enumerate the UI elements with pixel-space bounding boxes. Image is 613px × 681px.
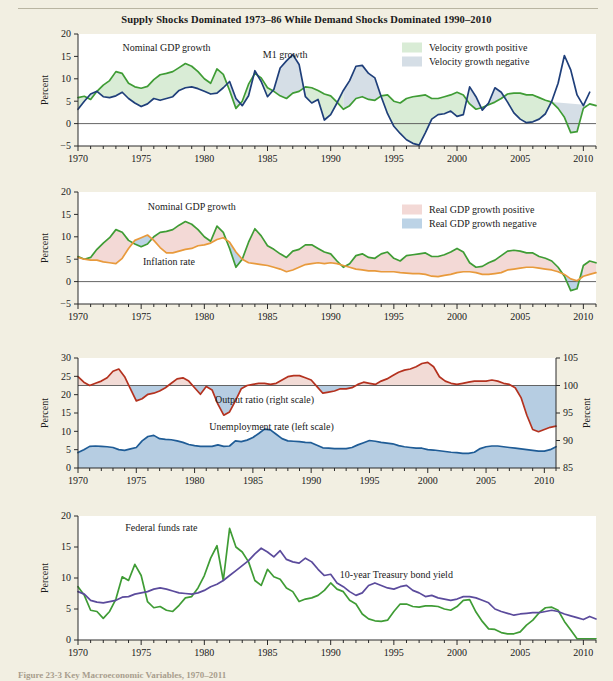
y-axis-tick-label: 5 — [66, 603, 71, 614]
series-annotation-1: Nominal GDP growth — [122, 42, 210, 53]
y-axis-right-tick-label: 100 — [563, 380, 578, 391]
legend-label-1: Real GDP growth positive — [429, 204, 535, 215]
x-axis-tick-label: 1985 — [258, 153, 278, 164]
y-axis-title: Percent — [39, 398, 50, 428]
panel3-svg: 051015202530Percent859095100105Percent19… — [0, 348, 613, 506]
figure-title: Supply Shocks Dominated 1973–86 While De… — [0, 14, 613, 25]
x-axis-tick-label: 2005 — [476, 475, 496, 486]
x-axis-tick-label: 1980 — [185, 475, 205, 486]
y-axis-tick-label: 20 — [61, 28, 71, 39]
y-axis-tick-label: −5 — [60, 298, 71, 309]
x-axis-tick-label: 2010 — [573, 153, 593, 164]
y-axis-tick-label: 10 — [61, 231, 71, 242]
x-axis-tick-label: 1985 — [258, 647, 278, 658]
y-axis-tick-label: 10 — [61, 426, 71, 437]
series-annotation-2: 10-year Treasury bond yield — [340, 569, 453, 580]
x-axis-tick-label: 2000 — [447, 153, 467, 164]
legend-label-2: Velocity growth negative — [429, 56, 530, 67]
y-axis-tick-label: 0 — [66, 276, 71, 287]
y-axis-tick-label: 5 — [66, 444, 71, 455]
x-axis-tick-label: 1970 — [68, 475, 88, 486]
plot-background — [78, 516, 596, 640]
x-axis-tick-label: 1995 — [359, 475, 379, 486]
x-axis-tick-label: 1990 — [321, 311, 341, 322]
chart-panel-2: −505101520Percent19701975198019851990199… — [0, 186, 613, 348]
x-axis-tick-label: 2005 — [510, 647, 530, 658]
series-annotation-2: Inflation rate — [143, 256, 195, 267]
legend-swatch-2 — [402, 219, 422, 229]
figure-caption: Figure 23-3 Key Macroeconomic Variables,… — [18, 670, 598, 681]
y-axis-tick-label: −5 — [60, 140, 71, 151]
y-axis-tick-label: 0 — [66, 118, 71, 129]
x-axis-tick-label: 2000 — [447, 647, 467, 658]
chart-panel-3: 051015202530Percent859095100105Percent19… — [0, 348, 613, 506]
x-axis-tick-label: 2010 — [573, 311, 593, 322]
legend-label-1: Velocity growth positive — [429, 42, 528, 53]
y-axis-tick-label: 20 — [61, 389, 71, 400]
x-axis-tick-label: 2010 — [534, 475, 554, 486]
x-axis-tick-label: 1975 — [131, 311, 151, 322]
x-axis-tick-label: 2005 — [510, 153, 530, 164]
x-axis-tick-label: 1990 — [301, 475, 321, 486]
y-axis-tick-label: 5 — [66, 96, 71, 107]
figure-container: Supply Shocks Dominated 1973–86 While De… — [0, 0, 613, 681]
y-axis-tick-label: 20 — [61, 186, 71, 197]
series-annotation-1: Federal funds rate — [125, 522, 198, 533]
x-axis-tick-label: 1995 — [384, 647, 404, 658]
legend-swatch-1 — [402, 205, 422, 215]
y-axis-tick-label: 5 — [66, 254, 71, 265]
panel1-svg: −505101520Percent19701975198019851990199… — [0, 28, 613, 186]
panel2-svg: −505101520Percent19701975198019851990199… — [0, 186, 613, 348]
legend-label-2: Real GDP growth negative — [429, 218, 537, 229]
x-axis-tick-label: 1975 — [131, 647, 151, 658]
y-axis-tick-label: 15 — [61, 541, 71, 552]
legend-swatch-2 — [402, 57, 422, 67]
y-axis-tick-label: 15 — [61, 51, 71, 62]
y-axis-right-tick-label: 90 — [563, 435, 573, 446]
legend-swatch-1 — [402, 43, 422, 53]
y-axis-right-title: Percent — [581, 398, 592, 428]
x-axis-tick-label: 1975 — [131, 153, 151, 164]
y-axis-title: Percent — [39, 563, 50, 593]
x-axis-tick-label: 1975 — [126, 475, 146, 486]
chart-panel-1: −505101520Percent19701975198019851990199… — [0, 28, 613, 186]
x-axis-tick-label: 1985 — [243, 475, 263, 486]
x-axis-tick-label: 2000 — [418, 475, 438, 486]
x-axis-tick-label: 1995 — [384, 311, 404, 322]
x-axis-tick-label: 1995 — [384, 153, 404, 164]
y-axis-tick-label: 0 — [66, 462, 71, 473]
x-axis-tick-label: 2000 — [447, 311, 467, 322]
y-axis-tick-label: 10 — [61, 572, 71, 583]
x-axis-tick-label: 1970 — [68, 647, 88, 658]
x-axis-tick-label: 1970 — [68, 311, 88, 322]
series-annotation-2: M1 growth — [263, 49, 308, 60]
top-divider-rule — [18, 8, 598, 9]
series-annotation-1: Output ratio (right scale) — [215, 394, 314, 406]
x-axis-tick-label: 1990 — [321, 647, 341, 658]
series-annotation-1: Nominal GDP growth — [148, 201, 236, 212]
panel4-svg: 05101520Percent1970197519801985199019952… — [0, 506, 613, 678]
y-axis-tick-label: 30 — [61, 352, 71, 363]
y-axis-tick-label: 15 — [61, 407, 71, 418]
x-axis-tick-label: 1990 — [321, 153, 341, 164]
y-axis-tick-label: 10 — [61, 73, 71, 84]
y-axis-tick-label: 20 — [61, 510, 71, 521]
x-axis-tick-label: 1985 — [258, 311, 278, 322]
x-axis-tick-label: 1970 — [68, 153, 88, 164]
y-axis-tick-label: 15 — [61, 209, 71, 220]
y-axis-right-tick-label: 95 — [563, 407, 573, 418]
y-axis-tick-label: 0 — [66, 634, 71, 645]
x-axis-tick-label: 1980 — [194, 311, 214, 322]
x-axis-tick-label: 1980 — [194, 153, 214, 164]
y-axis-title: Percent — [39, 75, 50, 105]
y-axis-right-tick-label: 85 — [563, 462, 573, 473]
chart-panel-4: 05101520Percent1970197519801985199019952… — [0, 506, 613, 678]
x-axis-tick-label: 2010 — [573, 647, 593, 658]
y-axis-tick-label: 25 — [61, 371, 71, 382]
x-axis-tick-label: 1980 — [194, 647, 214, 658]
series-annotation-2: Unemployment rate (left scale) — [209, 421, 334, 433]
y-axis-right-tick-label: 105 — [563, 352, 578, 363]
x-axis-tick-label: 2005 — [510, 311, 530, 322]
y-axis-title: Percent — [39, 233, 50, 263]
